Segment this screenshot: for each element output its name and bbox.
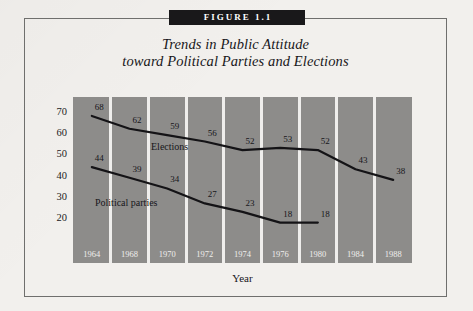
data-point-label: 34 bbox=[170, 175, 179, 184]
data-point-label: 23 bbox=[246, 199, 255, 208]
y-axis-tick: 50 bbox=[43, 149, 67, 159]
data-point-label: 53 bbox=[283, 135, 292, 144]
series-name-label: Political parties bbox=[95, 197, 158, 208]
data-point-label: 59 bbox=[170, 122, 179, 131]
data-point-label: 52 bbox=[321, 137, 330, 146]
data-point-label: 27 bbox=[208, 190, 217, 199]
line-chart: 203040506070 196419681970197219741976198… bbox=[73, 97, 412, 263]
series-lines bbox=[73, 97, 412, 263]
data-point-label: 56 bbox=[208, 129, 217, 138]
data-point-label: 18 bbox=[321, 210, 330, 219]
data-point-label: 44 bbox=[95, 154, 104, 163]
figure-number-banner: FIGURE 1.1 bbox=[169, 10, 305, 25]
series-name-label: Elections bbox=[151, 141, 188, 152]
figure-title-line-2: toward Political Parties and Elections bbox=[24, 53, 447, 70]
data-point-label: 52 bbox=[246, 137, 255, 146]
y-axis-tick: 20 bbox=[43, 213, 67, 223]
data-point-label: 39 bbox=[133, 165, 142, 174]
data-point-label: 18 bbox=[283, 210, 292, 219]
data-point-label: 68 bbox=[95, 103, 104, 112]
y-axis-tick: 30 bbox=[43, 192, 67, 202]
figure-title: Trends in Public Attitude toward Politic… bbox=[24, 36, 447, 70]
data-point-label: 43 bbox=[359, 156, 368, 165]
data-point-label: 38 bbox=[396, 167, 405, 176]
data-point-label: 62 bbox=[133, 116, 142, 125]
y-axis-tick: 70 bbox=[43, 107, 67, 117]
y-axis-tick: 60 bbox=[43, 128, 67, 138]
figure-title-line-1: Trends in Public Attitude bbox=[162, 36, 309, 52]
y-axis-tick: 40 bbox=[43, 171, 67, 181]
x-axis-title: Year bbox=[73, 272, 412, 284]
